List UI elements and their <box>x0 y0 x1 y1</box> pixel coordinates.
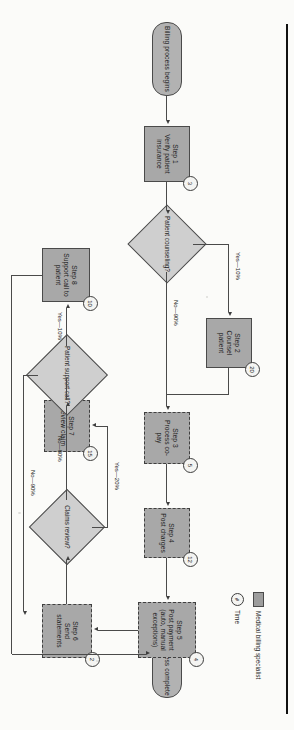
node-step-2-step: Step 2 <box>233 331 241 355</box>
node-step-6: Step 6 Send statements <box>42 604 92 658</box>
edge-step1-to-decision1 <box>166 182 167 210</box>
arrowhead <box>146 651 150 655</box>
edge-end-up <box>12 654 146 655</box>
badge-step-6-value: 2 <box>90 658 96 661</box>
node-decision-patient-counseling-label: Patient counseling? <box>163 216 171 272</box>
node-start-label: Billing process begins <box>163 26 171 92</box>
node-decision-patient-support-call-label: Patient support call? <box>63 346 71 404</box>
edge-step6-to-decision2 <box>66 560 67 604</box>
edge-label-counseling-no: No—90% <box>173 300 179 326</box>
arrowhead <box>166 596 170 600</box>
edge-label-support-yes: Yes—10% <box>57 312 63 340</box>
node-step-5: Step 5 Post payment (auto, manual except… <box>138 602 196 658</box>
edge-label-claims-no: No—80% <box>57 436 63 462</box>
scan-speckle <box>18 512 21 514</box>
badge-step-1: 3 <box>183 176 198 191</box>
badge-step-3-value: 5 <box>188 464 194 467</box>
badge-step-8: 10 <box>83 296 98 311</box>
badge-step-7-value: 15 <box>88 450 94 457</box>
flowchart-canvas: Billing process begins Billing process c… <box>0 0 294 730</box>
node-step-5-step: Step 5 <box>175 618 183 642</box>
legend-role-row: Medical billing specialist <box>253 592 264 679</box>
node-step-2-label: Counsel patient <box>217 319 233 367</box>
edge-start-to-step1 <box>166 96 167 120</box>
node-step-8-step: Step 8 <box>70 263 78 287</box>
badge-step-5: 4 <box>189 652 204 667</box>
node-decision-claims-review-label: Claims review? <box>63 505 71 548</box>
node-step-8: Step 8 Support call to patient <box>42 248 90 302</box>
scan-speckle <box>96 660 98 662</box>
badge-step-4: 12 <box>183 552 198 567</box>
arrowhead <box>66 304 70 308</box>
badge-step-3: 5 <box>183 458 198 473</box>
badge-step-4-value: 12 <box>188 556 194 563</box>
edge-step5-to-step6 <box>98 630 138 631</box>
arrowhead <box>166 210 170 214</box>
edge-step2-down <box>167 394 229 395</box>
node-step-2: Step 2 Counsel patient <box>206 318 252 368</box>
edge-step3-to-step4 <box>166 464 167 502</box>
edge-decision1-no <box>166 272 167 406</box>
node-step-4: Step 4 Post charges <box>144 508 190 558</box>
legend-role-label: Medical billing specialist <box>255 611 262 679</box>
node-step-1-label: Verify patient insurance <box>155 127 171 181</box>
arrowhead <box>228 312 232 316</box>
arrowhead <box>166 120 170 124</box>
edge-decision2-yes-vertical <box>92 527 108 528</box>
edge-step4-to-step5 <box>166 558 167 596</box>
page-spine-edge <box>286 24 288 714</box>
scan-speckle <box>206 296 208 298</box>
edge-decision2-yes-horizontal <box>107 426 108 527</box>
edge-step8-down <box>12 275 42 276</box>
node-start: Billing process begins <box>152 22 182 96</box>
edge-step2-out <box>228 368 229 394</box>
badge-step-8-value: 10 <box>88 300 94 307</box>
edge-step7-to-decision3 <box>66 378 67 400</box>
legend: Medical billing specialist # Time <box>214 592 264 712</box>
edge-decision3-no-horizontal <box>23 375 24 611</box>
edge-decision1-yes-vertical <box>193 244 229 245</box>
badge-step-2: 20 <box>245 362 260 377</box>
edge-decision1-yes-horizontal <box>228 244 229 312</box>
scanned-page: Billing process begins Billing process c… <box>0 0 294 730</box>
node-decision-patient-support-call: Patient support call? <box>38 346 96 404</box>
edge-label-support-no: No—90% <box>30 470 36 496</box>
legend-time-label: Time <box>234 610 241 624</box>
node-step-1: Step 1 Verify patient insurance <box>144 126 190 182</box>
badge-step-2-value: 20 <box>250 366 256 373</box>
edge-label-counseling-yes: Yes—10% <box>235 252 241 280</box>
edge-decision3-no-vertical <box>24 375 38 376</box>
node-step-5-label: Post payment (auto, manual exceptions) <box>151 603 176 657</box>
node-step-4-step: Step 4 <box>167 521 175 545</box>
legend-time-row: # Time <box>231 593 244 624</box>
node-step-6-step: Step 6 <box>71 619 79 643</box>
badge-step-1-value: 3 <box>188 182 194 185</box>
node-decision-claims-review: Claims review? <box>40 500 94 554</box>
arrowhead <box>66 556 70 560</box>
edge-decision3-yes <box>66 308 67 346</box>
node-step-3: Step 3 Process co-pay <box>144 412 190 464</box>
node-step-7-step: Step 7 <box>67 414 75 438</box>
arrowhead <box>92 423 96 427</box>
badge-step-7: 15 <box>83 446 98 461</box>
edge-label-claims-yes: Yes—20% <box>114 462 120 490</box>
node-step-4-label: Post charges <box>159 511 167 555</box>
arrowhead <box>94 627 98 631</box>
badge-step-5-value: 4 <box>194 658 200 661</box>
edge-decision2-no <box>66 406 67 500</box>
arrowhead <box>23 611 27 615</box>
arrowhead <box>166 502 170 506</box>
legend-time-symbol: # <box>235 598 241 601</box>
node-decision-patient-counseling: Patient counseling? <box>139 216 195 272</box>
node-step-8-label: Support call to patient <box>54 249 70 301</box>
edge-step8-to-end <box>11 275 12 654</box>
arrowhead <box>66 402 70 406</box>
node-step-1-step: Step 1 <box>171 142 179 166</box>
node-step-3-label: Process co-pay <box>155 413 171 463</box>
arrowhead <box>166 406 170 410</box>
legend-role-swatch <box>253 592 264 607</box>
node-step-3-step: Step 3 <box>171 426 179 450</box>
edge-decision2-yes-down <box>96 426 108 427</box>
node-step-6-label: Send statements <box>55 605 71 657</box>
legend-time-badge-icon: # <box>231 593 244 606</box>
